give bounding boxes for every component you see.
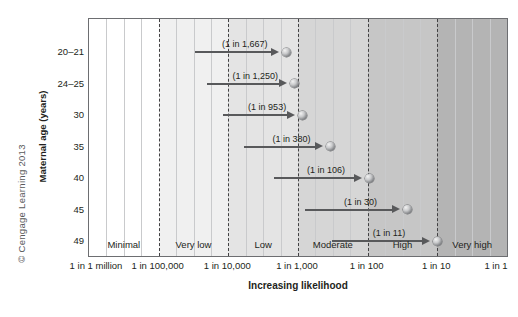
x-axis-tick: 1 in 100,000	[132, 260, 184, 271]
x-axis-tick: 1 in 1	[484, 260, 507, 271]
gridline	[263, 19, 264, 256]
gridline	[490, 19, 491, 256]
risk-value-label: (1 in 953)	[248, 102, 286, 112]
risk-value-label: (1 in 11)	[373, 228, 405, 238]
gridline	[141, 19, 142, 256]
risk-band-label: Very high	[452, 239, 492, 250]
gridline	[176, 19, 177, 256]
risk-arrow-head	[279, 79, 287, 87]
gridline	[472, 19, 473, 256]
risk-band-label: Low	[254, 239, 271, 250]
risk-arrow-head	[354, 174, 362, 182]
gridline	[420, 19, 421, 256]
risk-arrow-line	[274, 177, 354, 179]
risk-band-label: Minimal	[107, 239, 140, 250]
risk-arrow-head	[422, 237, 430, 245]
band-divider	[437, 19, 438, 256]
x-axis-tick: 1 in 10	[422, 260, 451, 271]
risk-value-label: (1 in 106)	[307, 165, 345, 175]
gridline	[246, 19, 247, 256]
risk-arrow-line	[244, 146, 315, 148]
x-axis-tick: 1 in 100	[350, 260, 384, 271]
y-axis-tick: 45	[32, 203, 84, 214]
gridline	[350, 19, 351, 256]
risk-value-label: (1 in 380)	[273, 134, 311, 144]
risk-value-label: (1 in 1,250)	[233, 71, 279, 81]
risk-band-label: Moderate	[313, 239, 353, 250]
y-axis-tick: 40	[32, 172, 84, 183]
risk-arrow-head	[392, 205, 400, 213]
gridline	[333, 19, 334, 256]
risk-marker	[433, 237, 442, 246]
risk-marker	[298, 111, 307, 120]
x-axis-tick: 1 in 1,000	[276, 260, 318, 271]
gridline	[194, 19, 195, 256]
y-axis-tick: 20–21	[32, 46, 84, 57]
risk-arrow-head	[271, 48, 279, 56]
band-divider	[228, 19, 229, 256]
band-divider	[159, 19, 160, 256]
risk-band-label: Very low	[176, 239, 212, 250]
risk-value-label: (1 in 1,667)	[222, 39, 268, 49]
risk-marker	[365, 174, 374, 183]
x-axis-title: Increasing likelihood	[88, 280, 508, 291]
y-axis-tick: 24–25	[32, 77, 84, 88]
gridline	[106, 19, 107, 256]
gridline	[211, 19, 212, 256]
risk-arrow-line	[195, 51, 270, 53]
gridline	[385, 19, 386, 256]
y-axis-tick: 30	[32, 109, 84, 120]
y-axis-tick: 49	[32, 235, 84, 246]
risk-band-label: High	[393, 239, 413, 250]
gridline	[403, 19, 404, 256]
risk-arrow-line	[223, 114, 288, 116]
risk-value-label: (1 in 30)	[344, 197, 377, 207]
risk-arrow-line	[207, 83, 279, 85]
y-axis-tick: 35	[32, 140, 84, 151]
gridline	[315, 19, 316, 256]
gridline	[455, 19, 456, 256]
copyright-notice: © Cengage Learning 2013	[16, 139, 27, 269]
x-axis-tick: 1 in 1 million	[70, 260, 123, 271]
x-axis-tick: 1 in 10,000	[204, 260, 251, 271]
chart-plot-area: (1 in 1,667)(1 in 1,250)(1 in 953)(1 in …	[88, 18, 508, 257]
x-axis-tick-labels: 1 in 1 million1 in 100,0001 in 10,0001 i…	[88, 260, 508, 276]
risk-arrow-head	[287, 111, 295, 119]
risk-arrow-head	[315, 142, 323, 150]
risk-marker	[282, 48, 291, 57]
band-divider	[368, 19, 369, 256]
gridline	[124, 19, 125, 256]
risk-arrow-line	[305, 209, 392, 211]
